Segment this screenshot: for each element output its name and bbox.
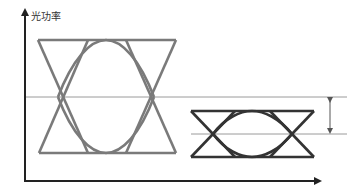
small-eye-upper-arc bbox=[213, 111, 292, 134]
eye-diagram-figure bbox=[0, 0, 364, 194]
small-eye-lower-arc bbox=[213, 134, 292, 157]
large-eye-lower-arc bbox=[58, 97, 154, 153]
large-eye-upper-arc bbox=[58, 40, 154, 97]
y-axis-label: 光功率 bbox=[31, 10, 61, 24]
